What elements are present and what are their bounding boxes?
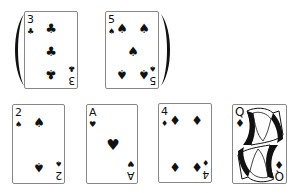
spade-pip-icon: ♠ (138, 22, 150, 35)
spade-pip-icon: ♠ (127, 45, 139, 58)
card-rank-top: Q♦ (235, 107, 245, 129)
spade-pip-icon: ♠ (33, 116, 45, 129)
diamond-pip-icon: ♦ (169, 114, 181, 127)
heart-pip-icon: ♥ (106, 139, 119, 152)
spade-pip-icon: ♠ (33, 161, 45, 174)
club-pip-icon: ♣ (45, 45, 57, 58)
diamond-pip-icon: ♦ (169, 161, 181, 174)
card-rank-bottom: 3♣ (68, 63, 75, 86)
card-4-diamonds[interactable]: 4♦ ♦ ♦ ♦ ♦ 4♦ (158, 103, 212, 183)
club-pip-icon: ♣ (45, 68, 57, 81)
card-rank-top: 2♠ (15, 107, 22, 130)
card-ace-hearts[interactable]: A♥ ♥ A♥ (86, 104, 138, 184)
card-rank-bottom: Q♦ (274, 159, 284, 181)
card-rank-bottom: 5♠ (149, 63, 156, 86)
card-rank-bottom: 4♦ (202, 157, 209, 180)
card-rank-top: 3♣ (27, 14, 34, 36)
card-rank-bottom: 2♠ (55, 158, 62, 181)
card-rank-top: 4♦ (161, 106, 168, 129)
spade-pip-icon: ♠ (116, 68, 128, 81)
diamond-pip-icon: ♦ (191, 114, 203, 127)
card-3-clubs[interactable]: 3♣ ♣ ♣ ♣ 3♣ (24, 11, 78, 89)
card-queen-diamonds[interactable]: Q♦ Q♦ (232, 104, 287, 184)
card-rank-bottom: A♥ (127, 158, 135, 181)
close-parenthesis (159, 12, 175, 88)
club-pip-icon: ♣ (45, 22, 57, 35)
card-2-spades[interactable]: 2♠ ♠ ♠ 2♠ (12, 104, 65, 184)
card-rank-top: 5♠ (108, 14, 115, 37)
card-5-spades[interactable]: 5♠ ♠ ♠ ♠ ♠ ♠ 5♠ (105, 11, 159, 89)
card-rank-top: A♥ (89, 107, 97, 130)
spade-pip-icon: ♠ (116, 22, 128, 35)
